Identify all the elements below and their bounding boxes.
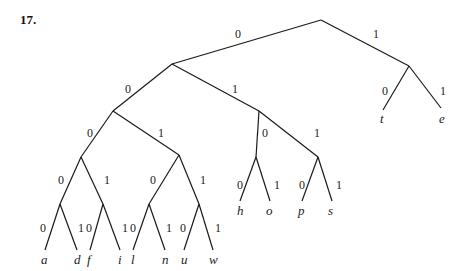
tree-edge [81,157,103,204]
tree-edge [172,20,321,64]
leaf-labels: tehopsadfilnuw [41,111,445,267]
edge-bit-label: 0 [299,178,305,192]
tree-edge [179,155,199,204]
edge-bit-label: 1 [314,126,320,140]
tree-edge [172,64,259,111]
leaf-label-l: l [131,252,135,267]
leaf-label-h: h [237,203,244,218]
edge-bit-label: 1 [336,178,342,192]
leaf-label-a: a [41,252,48,267]
leaf-edge [103,204,120,250]
leaf-label-t: t [380,111,384,126]
edge-bit-label: 0 [86,221,92,235]
leaf-edge [256,157,270,201]
tree-edge [113,111,179,155]
binary-code-tree: 01010101010101010101010101 tehopsadfilnu… [0,0,463,271]
leaf-label-e: e [439,111,445,126]
leaf-label-n: n [162,252,169,267]
edge-bit-label: 1 [274,178,280,192]
edge-bit-label: 0 [235,27,241,41]
leaf-edge [45,204,60,250]
edge-bit-label: 0 [58,173,64,187]
edge-bit-label: 1 [440,84,446,98]
leaf-label-d: d [74,252,81,267]
edge-bit-label: 1 [373,27,379,41]
edge-bit-label: 0 [382,84,388,98]
edge-bit-label: 0 [130,221,136,235]
leaf-edge [318,157,332,201]
edge-bit-label: 1 [232,82,238,96]
leaf-label-i: i [118,252,122,267]
edge-bit-label: 1 [104,173,110,187]
leaf-edge [149,204,165,250]
leaf-edge [199,204,213,250]
leaf-label-o: o [266,203,273,218]
edge-bit-label: 1 [200,173,206,187]
edge-bit-label: 0 [237,178,243,192]
tree-edge [113,64,172,111]
edge-bit-label: 1 [166,221,172,235]
tree-edge [81,111,113,157]
leaf-label-p: p [297,203,305,218]
leaf-label-f: f [87,252,93,267]
leaf-edge [409,66,441,108]
edge-bit-label: 1 [158,126,164,140]
tree-edge [321,20,409,66]
leaf-label-u: u [181,252,188,267]
leaf-edge [60,204,77,250]
edge-bit-label: 0 [125,82,131,96]
leaf-edge [184,204,199,250]
edge-bit-label: 0 [150,173,156,187]
edge-bit-label: 0 [40,221,46,235]
edge-bit-label: 0 [262,126,268,140]
edge-bit-label: 1 [215,221,221,235]
edge-bit-label: 1 [78,221,84,235]
edge-bit-label: 1 [122,221,128,235]
tree-edge [256,111,259,157]
leaf-label-s: s [328,203,333,218]
edge-bit-label: 0 [180,221,186,235]
edge-bit-label: 0 [87,126,93,140]
leaf-label-w: w [209,252,218,267]
